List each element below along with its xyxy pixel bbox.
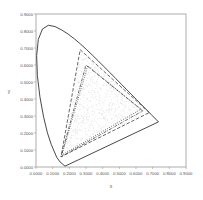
scatter-point <box>88 125 89 126</box>
scatter-point <box>92 90 93 91</box>
scatter-point <box>92 133 93 134</box>
scatter-point <box>89 116 90 117</box>
scatter-point <box>90 107 91 108</box>
scatter-point <box>112 117 113 118</box>
y-tick-label: 0.4000 <box>20 97 33 102</box>
scatter-point <box>84 112 85 113</box>
scatter-point <box>87 112 88 113</box>
scatter-point <box>82 139 83 140</box>
scatter-point <box>67 143 68 144</box>
scatter-point <box>76 116 77 117</box>
scatter-point <box>94 67 95 68</box>
scatter-point <box>105 100 106 101</box>
scatter-point <box>77 108 78 109</box>
y-tick-label: 0.9000 <box>20 12 33 17</box>
scatter-point <box>107 91 108 92</box>
scatter-point <box>74 95 75 96</box>
scatter-point <box>80 68 81 69</box>
scatter-point <box>109 111 110 112</box>
scatter-point <box>73 98 74 99</box>
scatter-point <box>93 128 94 129</box>
scatter-point <box>70 126 71 127</box>
scatter-point <box>110 106 111 107</box>
scatter-point <box>68 131 69 132</box>
scatter-point <box>109 102 110 103</box>
scatter-point <box>122 123 123 124</box>
scatter-point <box>81 127 82 128</box>
scatter-point <box>114 123 115 124</box>
scatter-point <box>140 114 141 115</box>
scatter-point <box>87 56 88 57</box>
scatter-point <box>92 81 93 82</box>
scatter-point <box>88 73 89 74</box>
scatter-point <box>97 96 98 97</box>
scatter-point <box>113 114 114 115</box>
scatter-point <box>75 112 76 113</box>
scatter-point <box>96 130 97 131</box>
scatter-point <box>90 97 91 98</box>
scatter-point <box>90 124 91 125</box>
scatter-point <box>80 139 81 140</box>
scatter-point <box>94 131 95 132</box>
scatter-point <box>74 138 75 139</box>
scatter-point <box>75 118 76 119</box>
scatter-point <box>128 101 129 102</box>
scatter-point <box>87 99 88 100</box>
scatter-point <box>130 114 131 115</box>
scatter-point <box>114 111 115 112</box>
scatter-point <box>66 129 67 130</box>
scatter-point <box>77 115 78 116</box>
scatter-point <box>67 149 68 150</box>
y-tick-label: 0.2000 <box>20 131 33 136</box>
scatter-point <box>74 147 75 148</box>
scatter-point <box>122 116 123 117</box>
scatter-point <box>78 75 79 76</box>
scatter-point <box>112 81 113 82</box>
scatter-point <box>66 147 67 148</box>
scatter-point <box>83 83 84 84</box>
scatter-point <box>138 105 139 106</box>
scatter-point <box>89 127 90 128</box>
scatter-point <box>79 66 80 67</box>
scatter-point <box>75 129 76 130</box>
scatter-point <box>77 120 78 121</box>
scatter-point <box>118 114 119 115</box>
scatter-point <box>105 93 106 94</box>
scatter-point <box>106 110 107 111</box>
scatter-point <box>71 145 72 146</box>
scatter-point <box>82 101 83 102</box>
scatter-point <box>87 105 88 106</box>
scatter-point <box>92 106 93 107</box>
scatter-point <box>73 102 74 103</box>
scatter-point <box>98 109 99 110</box>
scatter-point <box>85 129 86 130</box>
scatter-point <box>88 119 89 120</box>
scatter-point <box>99 96 100 97</box>
scatter-point <box>74 99 75 100</box>
scatter-point <box>132 104 133 105</box>
scatter-point <box>106 84 107 85</box>
scatter-point <box>111 102 112 103</box>
scatter-point <box>67 150 68 151</box>
scatter-point <box>132 106 133 107</box>
scatter-point <box>98 70 99 71</box>
scatter-point <box>136 115 137 116</box>
scatter-point <box>103 113 104 114</box>
scatter-point <box>110 88 111 89</box>
x-axis-label: x <box>110 183 113 189</box>
scatter-point <box>100 100 101 101</box>
scatter-point <box>126 117 127 118</box>
x-tick-label: 0.6000 <box>130 171 143 176</box>
scatter-point <box>92 71 93 72</box>
scatter-point <box>93 79 94 80</box>
scatter-point <box>138 103 139 104</box>
scatter-point <box>71 113 72 114</box>
scatter-point <box>103 76 104 77</box>
scatter-point <box>88 84 89 85</box>
scatter-point <box>85 135 86 136</box>
scatter-point <box>112 104 113 105</box>
scatter-point <box>78 103 79 104</box>
scatter-point <box>98 137 99 138</box>
scatter-point <box>124 105 125 106</box>
scatter-point <box>114 120 115 121</box>
